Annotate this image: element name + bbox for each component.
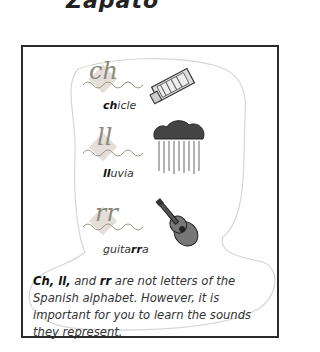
word-bold: ll [103,167,111,180]
digraph-info-box: ch chicle ll lluvia [21,45,279,338]
item-lluvia: ll lluvia [23,119,277,189]
item-guitarra: rr guitarra [23,193,277,263]
digraph-rr: rr [95,199,118,227]
rain-cloud-icon [149,119,209,179]
note-text-1: and [71,274,100,288]
word-rest: icle [117,99,136,112]
guitar-icon [147,193,207,253]
item-chicle: ch chicle [23,47,277,117]
word-lluvia: lluvia [103,167,134,180]
word-guitarra: guitarra [103,243,149,256]
partial-word-heading: Zapato [66,0,159,13]
explanation-text: Ch, ll, and rr are not letters of the Sp… [33,273,273,341]
word-prefix: guita [103,243,131,256]
digraph-ch: ch [89,57,118,85]
word-rest: uvia [111,167,134,180]
word-bold: rr [131,243,142,256]
note-bold-2: rr [100,274,111,288]
word-chicle: chicle [103,99,136,112]
note-bold-1: Ch, ll, [33,274,71,288]
word-bold: ch [103,99,117,112]
digraph-ll: ll [97,123,112,151]
gum-pack-icon [148,65,198,105]
squiggle-decoration [83,147,143,159]
